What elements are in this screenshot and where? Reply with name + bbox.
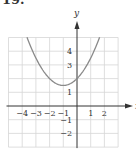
y-tick-label: −1 (60, 116, 72, 125)
y-tick-label: 3 (67, 61, 72, 70)
y-axis-label: y (73, 8, 80, 18)
x-tick-label: −3 (30, 109, 42, 118)
x-tick-label: −2 (44, 109, 56, 118)
x-tick-label: 1 (88, 109, 93, 118)
y-axis-arrow-icon (75, 21, 80, 29)
y-tick-label: 4 (67, 47, 72, 56)
y-tick-label: 1 (67, 88, 72, 97)
x-axis-arrow-icon (125, 104, 133, 109)
y-tick-label: −2 (60, 129, 72, 138)
x-axis-label: x (135, 101, 136, 111)
x-tick-label: 2 (102, 109, 107, 118)
parabola-graph: xy−4−3−2−112431−1−2 (0, 0, 136, 154)
x-tick-label: −4 (16, 109, 28, 118)
